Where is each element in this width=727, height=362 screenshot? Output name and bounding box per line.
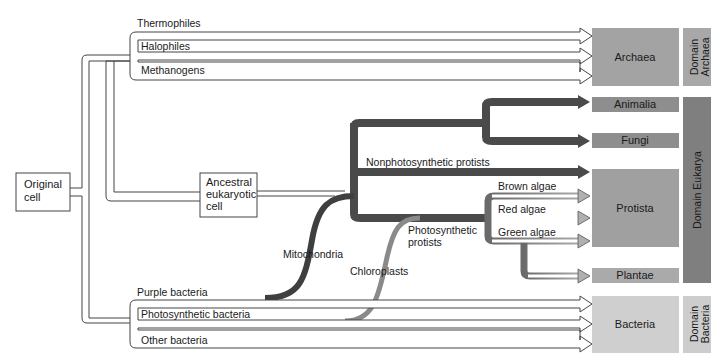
arrowhead-green-algae: [578, 234, 590, 248]
kingdom-protista-label: Protista: [616, 202, 654, 214]
branch-halophiles: Halophiles: [141, 40, 190, 52]
photosynthetic-protists-label-2: protists: [408, 236, 442, 248]
domain-bacteria-label-2: Bacteria: [699, 305, 711, 344]
arrowhead-fungi: [578, 134, 590, 148]
ancestral-label-1: Ancestral: [206, 176, 252, 188]
kingdom-archaea: Archaea: [592, 28, 679, 86]
main-trunk: [70, 55, 200, 323]
arrowhead-brown-algae: [578, 189, 590, 203]
mitochondria-strand: [265, 196, 354, 298]
branch-red-algae: Red algae: [498, 203, 546, 215]
domain-eukarya-label: Domain Eukarya: [691, 151, 703, 229]
branch-thermophiles: Thermophiles: [137, 17, 201, 29]
branch-green-algae: Green algae: [498, 226, 556, 238]
arrowhead-plantae: [578, 269, 590, 283]
photosynthetic-protists-label-1: Photosynthetic: [408, 224, 477, 236]
domain-eukarya: Domain Eukarya: [683, 97, 711, 283]
domain-archaea-label-2: Archaea: [699, 37, 711, 76]
domain-bacteria: Domain Bacteria: [683, 296, 711, 353]
domain-archaea: Domain Archaea: [683, 28, 711, 86]
kingdom-plantae-label: Plantae: [616, 269, 653, 281]
archaea-branches: Thermophiles Halophiles Methanogens: [130, 17, 592, 84]
branch-methanogens: Methanogens: [141, 64, 205, 76]
branch-purple-bacteria: Purple bacteria: [137, 286, 208, 298]
original-cell-label-2: cell: [24, 191, 41, 203]
branch-photosynthetic-bacteria: Photosynthetic bacteria: [141, 308, 250, 320]
dark-arrowheads: [578, 95, 590, 179]
grey-arrowheads: [578, 189, 590, 283]
kingdom-fungi: Fungi: [592, 133, 679, 148]
kingdom-fungi-label: Fungi: [621, 134, 649, 146]
ancestral-label-2: eukaryotic: [206, 188, 257, 200]
tree-of-life-diagram: Original cell Thermophiles Halophiles Me…: [0, 0, 727, 362]
arrowhead-red-algae: [578, 211, 590, 225]
kingdom-bacteria: Bacteria: [592, 296, 679, 353]
kingdom-protista: Protista: [592, 169, 679, 247]
mitochondria-label: Mitochondria: [283, 248, 343, 260]
kingdom-bacteria-label: Bacteria: [615, 318, 656, 330]
kingdom-archaea-label: Archaea: [615, 51, 657, 63]
branch-nonphotosynthetic-protists: Nonphotosynthetic protists: [366, 156, 490, 168]
ancestral-label-3: cell: [206, 200, 223, 212]
arrowhead-animalia: [578, 95, 590, 109]
branch-brown-algae: Brown algae: [498, 180, 557, 192]
arrowhead-nonphoto: [578, 165, 590, 179]
chloroplasts-label: Chloroplasts: [350, 265, 408, 277]
branch-other-bacteria: Other bacteria: [141, 334, 208, 346]
kingdom-plantae: Plantae: [592, 268, 679, 283]
kingdom-animalia: Animalia: [592, 97, 679, 112]
kingdom-animalia-label: Animalia: [614, 98, 657, 110]
original-cell-node: Original cell: [16, 173, 70, 211]
original-cell-label-1: Original: [24, 178, 62, 190]
